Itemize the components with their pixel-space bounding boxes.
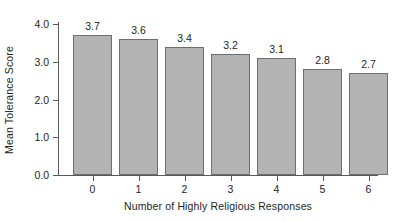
x-axis-tick-label: 2 xyxy=(165,184,205,195)
bar xyxy=(349,73,388,175)
x-axis-tick xyxy=(323,176,324,181)
y-axis-tick xyxy=(53,62,58,63)
x-axis-tick-label: 6 xyxy=(349,184,389,195)
bar-value-label: 3.7 xyxy=(71,21,115,32)
x-axis-tick xyxy=(277,176,278,181)
bar xyxy=(73,35,112,175)
y-axis-tick xyxy=(53,137,58,138)
bar-chart: Mean Tolerance Score 0.01.02.03.04.0 3.7… xyxy=(0,0,406,222)
bar xyxy=(303,69,342,175)
y-axis-line xyxy=(58,22,59,176)
bar xyxy=(119,39,158,175)
x-axis-tick-label: 3 xyxy=(211,184,251,195)
bar-value-label: 2.8 xyxy=(301,55,345,66)
bar xyxy=(211,54,250,175)
x-axis-tick xyxy=(231,176,232,181)
bar-value-label: 3.1 xyxy=(255,44,299,55)
bar-value-label: 3.2 xyxy=(209,40,253,51)
y-axis-tick xyxy=(53,100,58,101)
x-axis-tick-label: 4 xyxy=(257,184,297,195)
y-axis-tick xyxy=(53,175,58,176)
x-axis-tick xyxy=(93,176,94,181)
bar-value-label: 3.6 xyxy=(117,25,161,36)
y-axis-tick-label: 4.0 xyxy=(9,19,49,30)
bar-value-label: 2.7 xyxy=(347,59,391,70)
bar-value-label: 3.4 xyxy=(163,33,207,44)
x-axis-tick-label: 5 xyxy=(303,184,343,195)
x-axis-line xyxy=(58,175,378,176)
x-axis-tick xyxy=(185,176,186,181)
bar xyxy=(257,58,296,175)
y-axis-tick-label: 1.0 xyxy=(9,132,49,143)
y-axis-tick-label: 3.0 xyxy=(9,57,49,68)
x-axis-title: Number of Highly Religious Responses xyxy=(58,200,378,212)
bar xyxy=(165,47,204,175)
y-axis-tick-label: 0.0 xyxy=(9,170,49,181)
x-axis-tick xyxy=(369,176,370,181)
y-axis-tick-label: 2.0 xyxy=(9,95,49,106)
x-axis-tick-label: 0 xyxy=(73,184,113,195)
x-axis-tick xyxy=(139,176,140,181)
y-axis-tick xyxy=(53,24,58,25)
x-axis-tick-label: 1 xyxy=(119,184,159,195)
